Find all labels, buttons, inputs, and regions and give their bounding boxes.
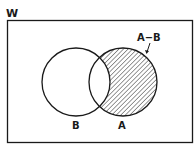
- shaded-region-a-minus-b: [85, 45, 165, 125]
- set-a-label: A: [118, 120, 126, 131]
- set-b-label: B: [72, 120, 80, 131]
- venn-diagram: W B A A−B: [0, 0, 196, 155]
- shaded-region-label: A−B: [137, 32, 161, 43]
- universe-label: W: [6, 7, 18, 20]
- leader-arrowhead: [145, 50, 149, 54]
